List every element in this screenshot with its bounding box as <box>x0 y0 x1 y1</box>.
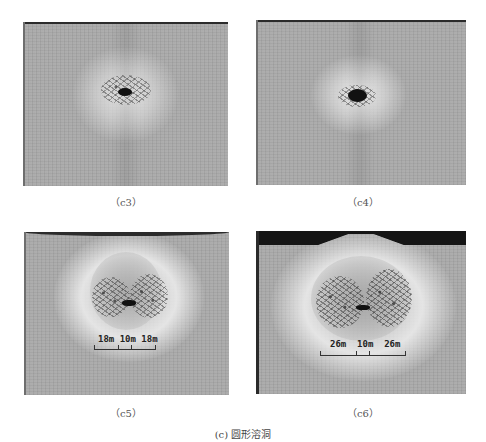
cavity <box>118 88 132 96</box>
crack-zone-left <box>92 277 130 317</box>
panel-c4 <box>256 20 466 185</box>
scale-tick <box>155 345 156 350</box>
cavity <box>122 300 136 306</box>
panel-label-c3: （c3） <box>86 194 166 209</box>
panel-border <box>23 22 25 186</box>
ground-surface <box>256 20 466 22</box>
scale-tick <box>94 345 95 350</box>
scale-tick <box>369 351 370 356</box>
panel-border <box>256 231 259 394</box>
scale-bar-text: 18m 10m 18m <box>98 334 158 344</box>
figure-caption: (c) 圆形溶洞 <box>0 426 486 441</box>
panel-border <box>24 232 26 395</box>
scale-tick <box>405 351 406 356</box>
scale-bar-line <box>94 349 156 350</box>
panel-c6: 26m 10m 26m <box>256 231 466 394</box>
scale-bar-c5: 18m 10m 18m <box>94 334 156 356</box>
cavity <box>356 305 370 310</box>
panel-border <box>256 20 258 185</box>
cavity <box>348 89 367 102</box>
scale-bar-text: 26m 10m 26m <box>330 339 400 349</box>
ground-surface <box>23 22 228 24</box>
scale-bar-c6: 26m 10m 26m <box>320 339 406 363</box>
scale-tick <box>356 351 357 356</box>
crack-zone-right <box>366 269 412 327</box>
panel-label-c5: （c5） <box>86 405 166 420</box>
panel-c3 <box>23 22 228 186</box>
crack-zone-left <box>316 276 364 328</box>
panel-c5: 18m 10m 18m <box>24 232 229 395</box>
panel-label-c6: （c6） <box>323 405 403 420</box>
ground-surface-top <box>256 231 466 234</box>
scale-bar-line <box>320 355 406 356</box>
scale-tick <box>131 345 132 350</box>
scale-tick <box>320 351 321 356</box>
scale-tick <box>118 345 119 350</box>
crack-zone-right <box>130 274 168 318</box>
panel-label-c4: （c4） <box>323 194 403 209</box>
